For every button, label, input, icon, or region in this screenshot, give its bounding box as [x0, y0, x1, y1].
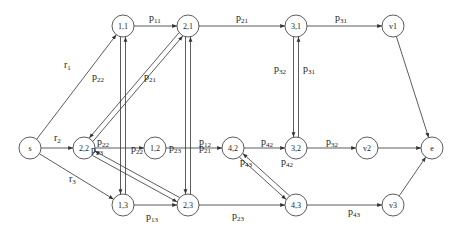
edge-label: p43 [240, 156, 253, 169]
edge-label: p22 [131, 143, 144, 156]
node-e: e [421, 137, 443, 159]
node-label: 3,2 [291, 144, 301, 153]
node-n23: 2,3 [177, 194, 199, 216]
node-label: 1,1 [118, 22, 128, 31]
edge-label: p32 [274, 63, 287, 76]
node-label: 3,1 [291, 22, 301, 31]
nodes-layer: s1,12,21,21,32,12,34,23,13,24,3v1v2v3e [19, 15, 443, 216]
network-diagram: s1,12,21,21,32,12,34,23,13,24,3v1v2v3e r… [0, 0, 459, 238]
node-label: 2,1 [183, 22, 193, 31]
node-v2: v2 [356, 137, 378, 159]
node-n31: 3,1 [285, 15, 307, 37]
node-s: s [19, 137, 41, 159]
edge-n22-to-n21 [93, 36, 183, 141]
edge-label: p21 [236, 12, 249, 25]
edge-label: p21 [144, 71, 157, 84]
node-label: 1,2 [150, 144, 160, 153]
edge-v1-to-e [396, 36, 428, 137]
edge-label: p13 [146, 211, 159, 224]
node-label: 4,3 [291, 201, 301, 210]
edge-labels-layer: r1r2r3p11p21p31p22p12p42p32p13p23p43p21p… [54, 12, 361, 224]
edge-label: p11 [149, 12, 161, 25]
node-label: 4,2 [228, 144, 238, 153]
edges-layer [37, 26, 429, 205]
node-label: e [430, 144, 434, 153]
edge-s-to-n11 [37, 35, 117, 140]
node-n32: 3,2 [285, 137, 307, 159]
node-n43: 4,3 [285, 194, 307, 216]
node-n11: 1,1 [112, 15, 134, 37]
node-label: v3 [389, 201, 397, 210]
edge-label: r1 [64, 59, 71, 72]
node-label: v1 [389, 22, 397, 31]
node-v3: v3 [382, 194, 404, 216]
edge-label: p22 [97, 136, 110, 149]
edge-label: p43 [348, 206, 361, 219]
edge-label: p23 [232, 210, 245, 223]
edge-label: p22 [92, 71, 105, 84]
edge-label: p31 [303, 63, 316, 76]
edge-label: p31 [335, 12, 348, 25]
node-n21: 2,1 [177, 15, 199, 37]
edge-label: r3 [69, 173, 76, 186]
edge-n21-to-n22 [89, 33, 179, 138]
node-label: s [28, 144, 31, 153]
node-label: v2 [363, 144, 371, 153]
node-n12: 1,2 [144, 137, 166, 159]
node-v1: v1 [382, 15, 404, 37]
edge-n22-to-n23 [92, 155, 177, 201]
edge-v3-to-e [399, 157, 426, 196]
node-label: 2,2 [79, 144, 89, 153]
edge-label: r2 [54, 132, 61, 145]
edge-label: p32 [326, 136, 339, 149]
node-n13: 1,3 [112, 194, 134, 216]
edge-label: p23 [169, 142, 182, 155]
node-label: 2,3 [183, 201, 193, 210]
node-label: 1,3 [118, 201, 128, 210]
edge-n23-to-n22 [95, 151, 180, 197]
edge-label: p42 [261, 136, 274, 149]
